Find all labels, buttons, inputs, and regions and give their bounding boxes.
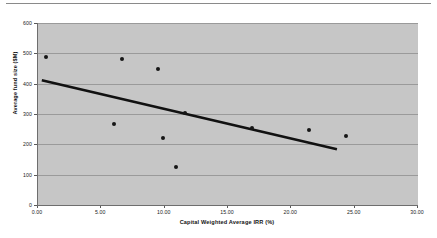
y-tick-label: 600 — [0, 20, 32, 26]
header-divider — [6, 3, 431, 4]
data-point — [44, 55, 48, 59]
x-axis-title: Capital Weighted Average IRR (%) — [37, 219, 417, 225]
data-point — [174, 165, 178, 169]
chart-figure: 0100200300400500600 0.005.0010.0015.0020… — [0, 0, 437, 238]
data-point — [250, 126, 254, 130]
y-axis-title: Average fund size ($M) — [12, 28, 18, 138]
x-tick-label: 15.00 — [207, 209, 247, 215]
plot-area — [37, 23, 418, 206]
y-tick-label: 200 — [0, 141, 32, 147]
data-point — [183, 111, 187, 115]
trendline — [38, 23, 418, 205]
x-tick-label: 5.00 — [80, 209, 120, 215]
x-tick-label: 25.00 — [334, 209, 374, 215]
x-tick-label: 10.00 — [144, 209, 184, 215]
x-tick-label: 0.00 — [17, 209, 57, 215]
x-tick-label: 20.00 — [270, 209, 310, 215]
y-tick-label: 100 — [0, 172, 32, 178]
y-tick-label: 0 — [0, 202, 32, 208]
data-point — [120, 57, 124, 61]
data-point — [307, 128, 311, 132]
x-tick-label: 30.00 — [397, 209, 437, 215]
data-point — [156, 67, 160, 71]
